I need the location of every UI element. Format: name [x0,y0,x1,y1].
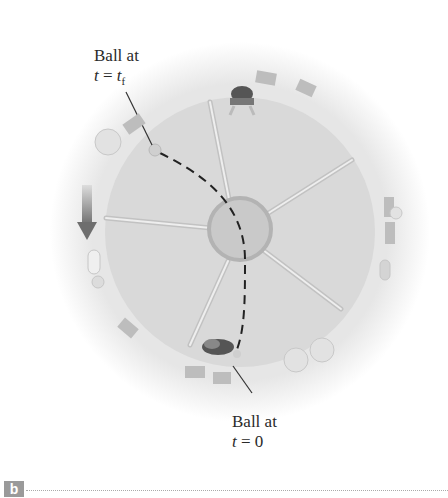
label-ball-final: Ball at t = tf [94,46,139,91]
thrower-person-icon [202,339,234,355]
label-final-line1: Ball at [94,46,139,66]
label-ball-initial: Ball at t = 0 [232,412,277,452]
panel-label: b [4,481,24,497]
label-initial-equation: t = 0 [232,432,277,452]
diagram-canvas [0,0,448,498]
rotating-platform-diagram: Ball at t = tf Ball at t = 0 b [0,0,448,498]
ball-icon [233,350,241,358]
label-final-equation: t = tf [94,66,139,91]
panel-divider [26,490,448,491]
ball-icon [149,144,161,156]
label-initial-line1: Ball at [232,412,277,432]
